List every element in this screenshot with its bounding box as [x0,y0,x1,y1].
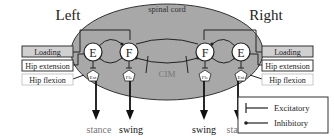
svg-text:F: F [126,46,133,60]
legend: Excitatory Inhibitory [238,97,328,133]
svg-text:Loading: Loading [274,48,301,57]
svg-text:Ext: Ext [90,75,98,80]
right-title: Right [249,7,283,23]
svg-text:Hip flexion: Hip flexion [29,76,66,85]
svg-text:E: E [237,46,244,60]
right-input-hip-extension: Hip extension [262,60,313,71]
legend-excitatory: Excitatory [274,103,310,113]
svg-text:Hip extension: Hip extension [25,62,70,71]
legend-inhibitory: Inhibitory [274,118,309,128]
right-input-loading: Loading [262,46,313,57]
left-input-loading: Loading [22,46,73,57]
svg-text:Hip extension: Hip extension [265,62,310,71]
svg-text:F: F [202,46,209,60]
svg-text:Fle: Fle [202,75,209,80]
arrowheads [92,110,242,120]
cim-label: CIM [158,69,175,79]
left-output-swing: swing [119,124,143,135]
right-neuron-e: E [232,43,250,61]
svg-text:Loading: Loading [34,48,61,57]
left-title: Left [56,7,82,23]
left-neuron-f: F [120,43,138,61]
right-output-swing: swing [192,124,216,135]
left-input-hip-extension: Hip extension [22,60,73,71]
left-neuron-e: E [84,43,102,61]
spinal-cord-label: spinal cord [148,4,186,14]
right-input-hip-flexion: Hip flexion [262,74,313,85]
left-output-stance: stance [87,124,113,135]
svg-text:Ext: Ext [238,75,246,80]
svg-text:Fle: Fle [126,75,133,80]
cpg-diagram: spinal cord Left Right CIM E [0,0,334,139]
svg-text:E: E [89,46,96,60]
right-neuron-f: F [196,43,214,61]
svg-text:Hip flexion: Hip flexion [269,76,306,85]
left-input-hip-flexion: Hip flexion [22,74,73,85]
